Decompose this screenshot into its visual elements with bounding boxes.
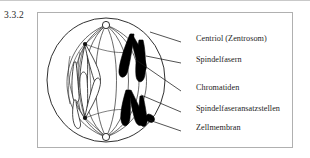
upper-attachment-point xyxy=(83,42,87,46)
bottom-centriole xyxy=(102,133,109,140)
top-centriole xyxy=(102,21,109,28)
label-ansatzstellen: Spindelfaseransatzstellen xyxy=(196,105,280,113)
label-chromatiden: Chromatiden xyxy=(196,84,239,92)
cell-membrane-outline xyxy=(47,18,165,142)
page-top-rule xyxy=(0,0,310,1)
lower-attachment-point xyxy=(83,116,87,120)
figure-number: 3.3.2 xyxy=(4,10,24,20)
label-zellmembran: Zellmembran xyxy=(196,124,241,132)
label-centriol: Centriol (Zentrosom) xyxy=(196,35,267,43)
figure-root: 3.3.2 xyxy=(0,0,310,158)
label-spindelfasern: Spindelfasern xyxy=(196,56,242,64)
